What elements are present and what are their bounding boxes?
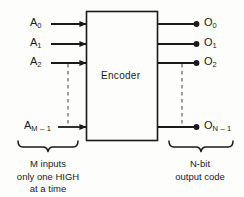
right-brace xyxy=(169,141,233,152)
output-terminal-2 xyxy=(194,60,200,66)
output-terminal-1 xyxy=(194,41,200,47)
left-caption: M inputs only one HIGH at a time xyxy=(0,158,96,196)
left-caption-line-1: M inputs xyxy=(0,158,96,171)
input-label-0: A0 xyxy=(30,17,42,30)
output-terminal-3 xyxy=(194,124,200,130)
input-label-2: A2 xyxy=(30,56,42,69)
right-caption-line-2: output code xyxy=(152,171,244,184)
encoder-block-label: Encoder xyxy=(101,71,140,81)
output-label-2: O2 xyxy=(204,56,217,69)
left-caption-line-3: at a time xyxy=(0,183,96,196)
left-caption-line-2: only one HIGH xyxy=(0,171,96,184)
right-caption: N-bit output code xyxy=(152,158,244,183)
output-label-3: ON – 1 xyxy=(204,120,232,133)
input-label-3: AM – 1 xyxy=(24,120,51,133)
left-brace xyxy=(18,141,78,152)
input-label-1: A1 xyxy=(30,37,42,50)
output-label-0: O0 xyxy=(204,17,217,30)
output-label-1: O1 xyxy=(204,37,217,50)
output-terminal-0 xyxy=(194,21,200,27)
right-caption-line-1: N-bit xyxy=(152,158,244,171)
encoder-diagram: A0 A1 A2 AM – 1 O0 O1 O2 ON – 1 Encoder … xyxy=(0,0,244,197)
